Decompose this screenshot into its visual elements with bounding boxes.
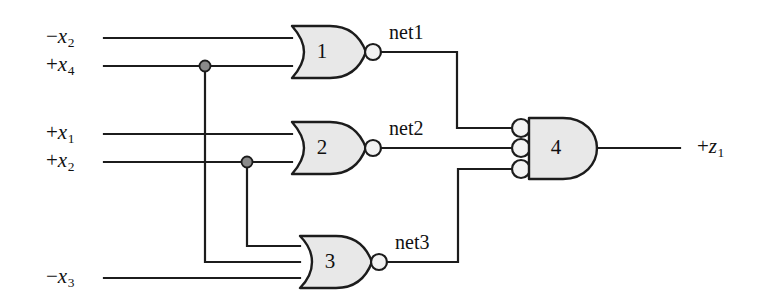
net-label-net2: net2 xyxy=(389,118,423,138)
gate-1-nor-body xyxy=(292,26,366,78)
gate-1-number: 1 xyxy=(317,39,328,63)
junction-dot-x4 xyxy=(200,61,211,72)
output-label-z1: +z1 xyxy=(697,136,724,160)
gate-3-output-bubble xyxy=(371,254,387,270)
gate-4-input-bubble-3 xyxy=(512,160,530,178)
junction-dot-x2 xyxy=(242,157,253,168)
gate-4-number: 4 xyxy=(551,135,562,159)
input-label-x4-pos: +x4 xyxy=(46,54,74,78)
gate-4-input-bubble-2 xyxy=(512,139,530,157)
circuit-schematic-svg: 1 2 3 4 xyxy=(0,0,766,294)
gate-2-output-bubble xyxy=(365,140,381,156)
gate-3-number: 3 xyxy=(325,249,336,273)
gate-1-output-bubble xyxy=(365,44,381,60)
input-label-x3-neg: −x3 xyxy=(46,266,74,290)
logic-circuit-figure: 1 2 3 4 −x2 +x4 +x1 +x2 −x3 net1 net2 xyxy=(0,0,766,294)
input-label-x2-neg: −x2 xyxy=(46,26,74,50)
gate-4-input-bubble-1 xyxy=(512,119,530,137)
gate-2-nor-body xyxy=(292,122,366,174)
gate-4-and-body xyxy=(529,118,597,179)
input-label-x1-pos: +x1 xyxy=(46,122,74,146)
gate-3-nor-body xyxy=(300,236,372,288)
input-label-x2-pos: +x2 xyxy=(46,150,74,174)
gate-2-number: 2 xyxy=(317,135,328,159)
net-label-net3: net3 xyxy=(395,232,429,252)
net-label-net1: net1 xyxy=(389,22,423,42)
